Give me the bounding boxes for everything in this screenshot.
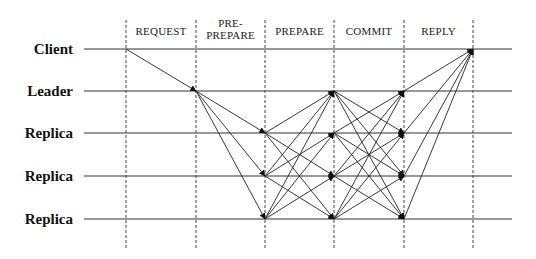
- node-label-replica: Replica: [25, 125, 74, 141]
- reply-arrow: [404, 49, 473, 219]
- node-label-replica: Replica: [25, 211, 74, 227]
- node-label-leader: Leader: [27, 83, 73, 99]
- pre-prepare-arrow: [196, 91, 265, 219]
- node-label-replica: Replica: [25, 168, 74, 184]
- request-arrow: [126, 49, 196, 91]
- phase-label-commit: COMMIT: [346, 25, 393, 37]
- prepare-arrow: [265, 91, 334, 133]
- reply-arrow: [404, 49, 473, 91]
- reply-arrow: [404, 49, 473, 176]
- pre-prepare-arrow: [196, 91, 265, 133]
- prepare-arrow: [265, 91, 334, 219]
- phase-label-reply: REPLY: [421, 25, 456, 37]
- timelines: [84, 49, 512, 219]
- node-label-client: Client: [34, 41, 73, 57]
- node-labels: ClientLeaderReplicaReplicaReplica: [25, 41, 74, 227]
- phase-label-request: REQUEST: [136, 25, 187, 37]
- message-arrows: [126, 49, 473, 219]
- phase-labels: REQUESTPRE-PREPAREPREPARECOMMITREPLY: [136, 17, 456, 41]
- pbft-diagram: ClientLeaderReplicaReplicaReplica REQUES…: [0, 0, 536, 259]
- phase-label-preprepare: PREPARE: [206, 29, 255, 41]
- phase-label-prepare: PREPARE: [275, 25, 324, 37]
- phase-label-preprepare: PRE-: [218, 17, 243, 29]
